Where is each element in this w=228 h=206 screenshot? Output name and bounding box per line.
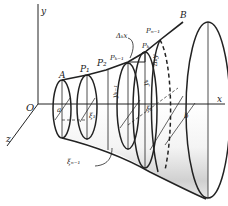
point-label-P1: P₁	[79, 64, 90, 74]
origin-label: O	[26, 102, 34, 113]
axis-label-x: x	[217, 94, 222, 104]
point-label-B: B	[179, 10, 187, 20]
axis-label-z: z	[5, 134, 11, 144]
point-label-Pk-minus-1: Pₖ₋₁	[109, 54, 124, 62]
point-label-P2: P₂	[96, 58, 107, 68]
label-b: b	[184, 112, 189, 120]
label-xik: ξₖ	[146, 105, 153, 113]
point-label-Pk: Pₖ	[141, 42, 150, 50]
delta-x-pointer	[128, 38, 133, 58]
axis-label-y: y	[40, 6, 47, 16]
point-label-Pn-minus-1: Pₙ₋₁	[145, 27, 160, 35]
point-label-A: A	[58, 70, 66, 80]
label-a: a	[57, 106, 61, 114]
label-y-k-minus-1: yₖ₋₁	[111, 85, 119, 99]
solid-of-revolution-diagram: y x z O A P₁ P₂ Pₖ₋₁ Pₖ Pₙ₋₁ B a b ξ₁ ξₖ…	[0, 0, 228, 206]
label-xin-minus-1: ξₙ₋₁	[67, 158, 80, 166]
label-delta-k-x: Δₖx	[115, 32, 128, 40]
label-xi1: ξ₁	[89, 112, 96, 120]
label-y-k: yₖ	[142, 79, 150, 87]
label-delta-k-y: Δₖy	[151, 53, 159, 67]
